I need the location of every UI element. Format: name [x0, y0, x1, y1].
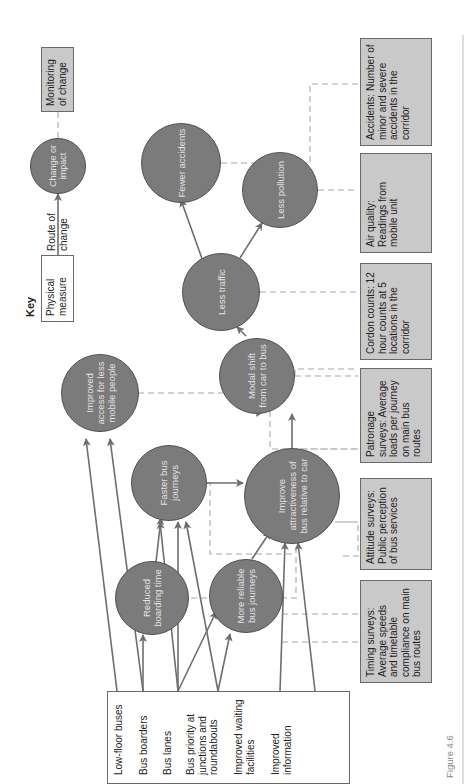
- monitor-cordon-counts: Cordon counts: 12 hour counts at 5 locat…: [360, 263, 432, 360]
- measure-low-floor-buses: Low-floor buses: [113, 704, 125, 775]
- key-route-of-change: Route of change: [46, 213, 69, 251]
- monitor-accidents: Accidents: Number of minor and severe ac…: [360, 38, 432, 146]
- node-reduced-boarding-time: Reduced boarding time: [115, 561, 189, 635]
- measure-bus-lanes: Bus lanes: [162, 731, 174, 775]
- key-title: Key: [24, 297, 36, 317]
- key-physical-measure: Physical measure: [41, 255, 74, 322]
- monitor-patronage-surveys: Patronage surveys: Average loads per jou…: [360, 368, 432, 463]
- measure-improved-information: Improved information: [270, 705, 293, 775]
- monitor-air-quality: Air quality: Readings from mobile unit: [360, 153, 432, 253]
- key-monitoring-of-change: Monitoring of change: [41, 47, 74, 112]
- measure-improved-waiting: Improved waiting facilities: [233, 697, 256, 775]
- measure-bus-priority: Bus priority at junctions and roundabout…: [185, 699, 220, 775]
- diagram-canvas: Low-floor buses Bus boarders Bus lanes B…: [0, 0, 466, 784]
- node-less-pollution: Less pollution: [242, 152, 318, 228]
- node-improve-attractiveness: Improve attractiveness of bus relative t…: [244, 448, 340, 544]
- monitor-attitude-surveys: Attitude surveys: Public perception of b…: [360, 478, 432, 570]
- node-improved-access: Improved access for less mobile people: [61, 354, 139, 432]
- figure-label: Figure 4.6: [444, 735, 455, 778]
- node-fewer-accidents: Fewer accidents: [141, 123, 221, 203]
- physical-measures-box: Low-floor buses Bus boarders Bus lanes B…: [107, 691, 350, 784]
- node-less-traffic: Less traffic: [182, 253, 260, 331]
- node-modal-shift: Modal shift from car to bus: [219, 338, 295, 414]
- monitor-timing-surveys: Timing surveys: Average speeds and timet…: [360, 580, 432, 683]
- node-more-reliable-journeys: More reliable bus journeys: [209, 559, 283, 633]
- node-faster-bus-journeys: Faster bus journeys: [131, 445, 207, 521]
- measure-bus-boarders: Bus boarders: [138, 716, 150, 775]
- key-change-or-impact: Change or impact: [30, 138, 86, 194]
